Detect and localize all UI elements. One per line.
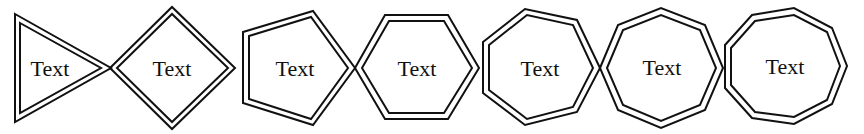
heptagon-label: Text [521, 56, 560, 81]
nonagon-shape[interactable]: Text [725, 8, 847, 124]
nonagon-label: Text [766, 54, 805, 79]
pentagon-label: Text [276, 56, 315, 81]
triangle-label: Text [31, 56, 70, 81]
hexagon-shape[interactable]: Text [355, 15, 479, 119]
diamond-label: Text [153, 56, 192, 81]
polygon-diagram: Text Text Text Text Text Text Text [0, 0, 864, 134]
triangle-shape[interactable]: Text [15, 14, 111, 122]
pentagon-shape[interactable]: Text [243, 11, 355, 125]
heptagon-shape[interactable]: Text [483, 9, 600, 125]
octagon-shape[interactable]: Text [600, 8, 723, 128]
hexagon-label: Text [398, 56, 437, 81]
octagon-label: Text [643, 55, 682, 80]
diamond-shape[interactable]: Text [110, 7, 235, 129]
